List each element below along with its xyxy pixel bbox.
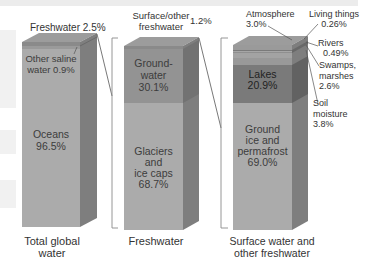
label-line: Atmosphere (246, 9, 295, 19)
segment-other-saline (22, 46, 80, 49)
label-line: other freshwater (222, 247, 322, 259)
label-oceans: Oceans 96.5% (22, 128, 80, 152)
connector-line (97, 34, 112, 96)
label-other-saline: Other saline water 0.9% (22, 53, 80, 75)
label-line: 0.26% (304, 19, 364, 29)
label-line: 30.1% (124, 81, 183, 93)
segment-freshwater (22, 42, 80, 46)
label-line: Surface/other (126, 10, 196, 21)
label-surface-other-freshwater: Surface/other freshwater (126, 10, 196, 32)
label-line: Rivers (318, 38, 349, 48)
label-line: 3.0% (246, 19, 295, 29)
label-glaciers: Glaciers and ice caps 68.7% (124, 146, 183, 190)
label-line: Total global (12, 235, 92, 247)
label-soil-moisture: Soil moisture 3.8% (313, 98, 348, 130)
bracket (221, 38, 228, 228)
label-line: Oceans (22, 128, 80, 140)
label-line: Living things (304, 9, 364, 19)
label-line: 68.7% (124, 179, 183, 190)
label-atmosphere: Atmosphere 3.0% (246, 9, 295, 29)
label-groundwater: Ground- water 30.1% (124, 57, 183, 93)
connector-line (199, 38, 221, 128)
label-line: 20.9% (233, 80, 292, 91)
label-line: Soil (313, 98, 348, 109)
label-line: 2.6% (319, 81, 356, 92)
label-line: Other saline (22, 53, 80, 64)
label-line: 69.0% (233, 157, 292, 168)
label-living-things: Living things 0.26% (304, 9, 364, 29)
label-surface-pct: 1.2% (190, 15, 212, 26)
label-swamps: Swamps, marshes 2.6% (319, 60, 356, 92)
bracket (112, 38, 118, 228)
label-rivers: Rivers 0.49% (318, 38, 349, 58)
label-line: moisture (313, 109, 348, 120)
label-line: water (124, 69, 183, 81)
label-line: 0.49% (318, 48, 349, 58)
label-line: 3.8% (313, 119, 348, 130)
label-line: freshwater (126, 21, 196, 32)
category-freshwater: Freshwater (120, 235, 192, 247)
segment-surface-other (124, 46, 183, 49)
category-surface-water: Surface water and other freshwater (222, 235, 322, 259)
label-freshwater-2-5: Freshwater 2.5% (30, 22, 106, 33)
label-line: Surface water and (222, 235, 322, 247)
label-line: 96.5% (22, 140, 80, 152)
category-total-global-water: Total global water (12, 235, 92, 259)
label-lakes: Lakes 20.9% (233, 69, 292, 91)
label-line: water (12, 247, 92, 259)
label-ground-ice: Ground ice and permafrost 69.0% (233, 124, 292, 168)
label-line: water 0.9% (22, 64, 80, 75)
label-line: marshes (319, 71, 356, 82)
label-line: Ground- (124, 57, 183, 69)
label-line: Swamps, (319, 60, 356, 71)
